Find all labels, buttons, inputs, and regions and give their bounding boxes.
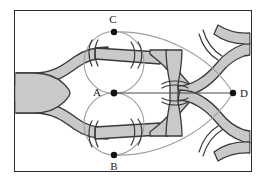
cut-mark-right-lower-b <box>199 126 218 152</box>
vertex-D <box>230 90 236 96</box>
band-right-upper-stub <box>214 25 250 44</box>
vertex-label-D: D <box>240 87 248 99</box>
vertex-C <box>111 29 117 35</box>
vertex-label-A: A <box>93 86 101 98</box>
vertex-label-B: B <box>110 160 117 172</box>
figure-page: C A B D <box>0 0 268 186</box>
vertex-A <box>111 90 118 97</box>
diagram-canvas: C A B D <box>0 0 268 186</box>
band-right-lower-stub <box>214 142 250 161</box>
vertex-label-C: C <box>109 13 116 25</box>
band-left-trunk-core <box>15 73 70 113</box>
cut-mark-right-upper-b <box>199 34 218 60</box>
vertex-B <box>111 152 117 158</box>
